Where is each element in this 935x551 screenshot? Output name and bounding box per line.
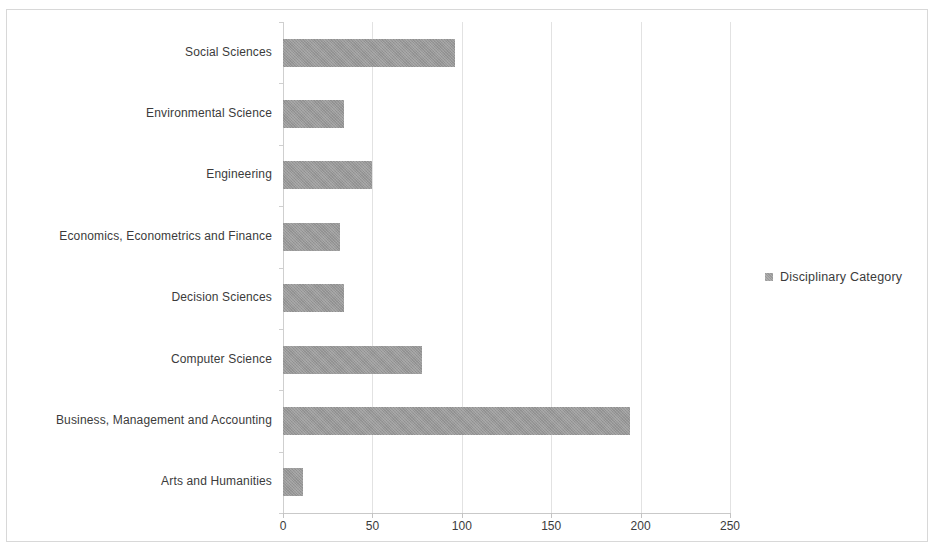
gridline xyxy=(730,22,731,513)
bar xyxy=(283,284,344,312)
category-label: Decision Sciences xyxy=(0,290,272,304)
category-label: Economics, Econometrics and Finance xyxy=(0,229,272,243)
category-axis-labels: Social SciencesEnvironmental ScienceEngi… xyxy=(0,0,272,551)
category-label: Business, Management and Accounting xyxy=(0,413,272,427)
value-tick-label: 150 xyxy=(521,519,581,533)
category-label: Computer Science xyxy=(0,352,272,366)
bar xyxy=(283,39,455,67)
gridline xyxy=(551,22,552,513)
bar xyxy=(283,468,303,496)
value-tick-label: 250 xyxy=(700,519,760,533)
value-tick-label: 200 xyxy=(611,519,671,533)
chart-figure: Social SciencesEnvironmental ScienceEngi… xyxy=(0,0,935,551)
value-tick xyxy=(283,513,284,518)
bar xyxy=(283,223,340,251)
gridline xyxy=(372,22,373,513)
value-tick-label: 100 xyxy=(432,519,492,533)
value-tick xyxy=(551,513,552,518)
legend-swatch-icon xyxy=(765,273,773,281)
category-label: Arts and Humanities xyxy=(0,474,272,488)
value-tick xyxy=(641,513,642,518)
value-tick xyxy=(462,513,463,518)
legend: Disciplinary Category xyxy=(765,270,902,284)
category-label: Environmental Science xyxy=(0,106,272,120)
legend-label: Disciplinary Category xyxy=(780,270,902,284)
gridline xyxy=(462,22,463,513)
bar xyxy=(283,161,372,189)
plot-area xyxy=(283,22,730,513)
bar xyxy=(283,100,344,128)
bar xyxy=(283,346,422,374)
value-tick xyxy=(372,513,373,518)
value-tick-label: 0 xyxy=(253,519,313,533)
value-axis-line xyxy=(283,513,731,514)
value-tick xyxy=(730,513,731,518)
value-tick-label: 50 xyxy=(342,519,402,533)
bar xyxy=(283,407,630,435)
gridline xyxy=(641,22,642,513)
category-label: Social Sciences xyxy=(0,45,272,59)
category-label: Engineering xyxy=(0,167,272,181)
